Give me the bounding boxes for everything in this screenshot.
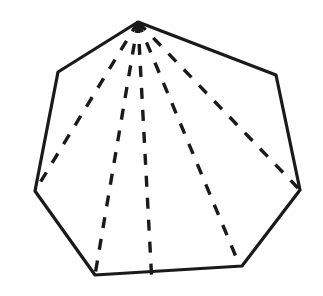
pyramid-outline — [35, 22, 300, 275]
hidden-edge-apex-to-base-center-front — [138, 22, 152, 284]
pyramid-diagram: Heptagonal pyramid — [0, 0, 323, 296]
figure-canvas: Heptagonal pyramid — [0, 0, 323, 296]
hidden-edge-apex-to-bottom-left — [95, 22, 138, 275]
hidden-edge-apex-to-bottom-right — [138, 22, 239, 264]
hidden-edge-apex-to-right — [138, 22, 298, 188]
